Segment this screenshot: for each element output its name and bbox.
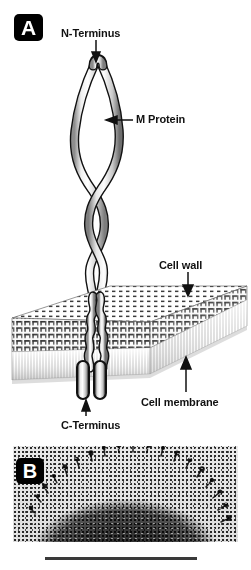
arrowhead-c-terminus <box>82 400 90 411</box>
cell-membrane-slab <box>12 300 247 384</box>
cell-wall-slab <box>12 286 247 352</box>
micrograph-grain-highlight <box>13 446 238 542</box>
panel-label-a: A <box>14 14 43 41</box>
electron-micrograph <box>13 446 238 542</box>
arrowhead-cell-wall <box>183 285 193 296</box>
label-c-terminus: C-Terminus <box>61 419 120 431</box>
label-n-terminus: N-Terminus <box>61 27 120 39</box>
figure-root: A <box>0 0 251 570</box>
scale-bar <box>45 557 197 560</box>
label-m-protein: M Protein <box>136 113 185 125</box>
membrane-anchor <box>76 296 107 400</box>
arrowhead-m-protein <box>106 116 117 124</box>
arrowhead-n-terminus <box>92 52 100 62</box>
coiled-coil-dimer <box>74 59 119 297</box>
panel-label-b: B <box>16 458 44 484</box>
arrowhead-cell-membrane <box>181 357 191 369</box>
label-cell-membrane: Cell membrane <box>141 396 219 408</box>
label-cell-wall: Cell wall <box>159 259 202 271</box>
annotation-leaders <box>82 40 193 416</box>
